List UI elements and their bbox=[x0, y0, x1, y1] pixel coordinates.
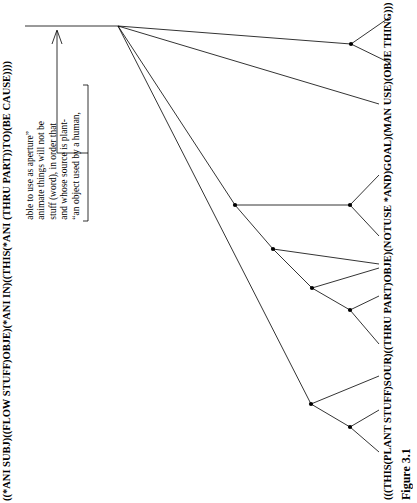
node-n3 bbox=[271, 247, 275, 251]
bottom-formula-label: (((THIS(PLANT STUFF)SOUR)((THRU PART)OBJ… bbox=[382, 2, 393, 500]
figure-caption: Figure 3.1 bbox=[399, 420, 414, 500]
edge-n6-a bbox=[350, 296, 379, 310]
figure-canvas bbox=[0, 0, 417, 503]
edge-n4-leaf bbox=[312, 268, 379, 288]
edge-n7-n8 bbox=[311, 404, 350, 427]
edge-root-n2 bbox=[118, 26, 235, 205]
edge-n3-leaf bbox=[273, 249, 379, 264]
node-n8 bbox=[348, 425, 352, 429]
node-n2 bbox=[233, 203, 237, 207]
node-n7 bbox=[309, 402, 313, 406]
edge-n5-b bbox=[350, 205, 379, 236]
edge-n5-a bbox=[350, 175, 379, 205]
gloss-line: and whose source is plant- bbox=[59, 119, 71, 220]
node-n4 bbox=[310, 286, 314, 290]
node-n6 bbox=[348, 308, 352, 312]
node-n5 bbox=[348, 203, 352, 207]
tree-edges bbox=[25, 17, 390, 452]
gloss-line: animate things will not be bbox=[36, 121, 48, 220]
edge-root-n1 bbox=[118, 26, 351, 44]
edge-n8-a bbox=[350, 410, 379, 427]
gloss-line: “an object used by a human, bbox=[71, 112, 83, 220]
edge-n6-b bbox=[350, 310, 379, 344]
edge-root-leaf2 bbox=[118, 26, 379, 104]
edge-n3-n4 bbox=[273, 249, 312, 288]
gloss-line: stuff (word), in order that bbox=[48, 123, 60, 220]
node-n1 bbox=[349, 42, 353, 46]
edge-n7-leaf bbox=[311, 376, 379, 404]
top-formula-label: ((*ANI SUBJ)((FLOW STUFF)OBJE)(*ANI IN)(… bbox=[1, 1, 12, 501]
edge-root-n7 bbox=[118, 26, 311, 404]
tree-nodes bbox=[233, 42, 353, 429]
edge-n4-n6 bbox=[312, 288, 350, 310]
edge-n8-b bbox=[350, 427, 379, 452]
gloss-annotation: “an object used by a human, and whose so… bbox=[24, 84, 82, 220]
gloss-line: able to use as aperture” bbox=[25, 131, 37, 220]
edge-n2-n3 bbox=[235, 205, 273, 249]
